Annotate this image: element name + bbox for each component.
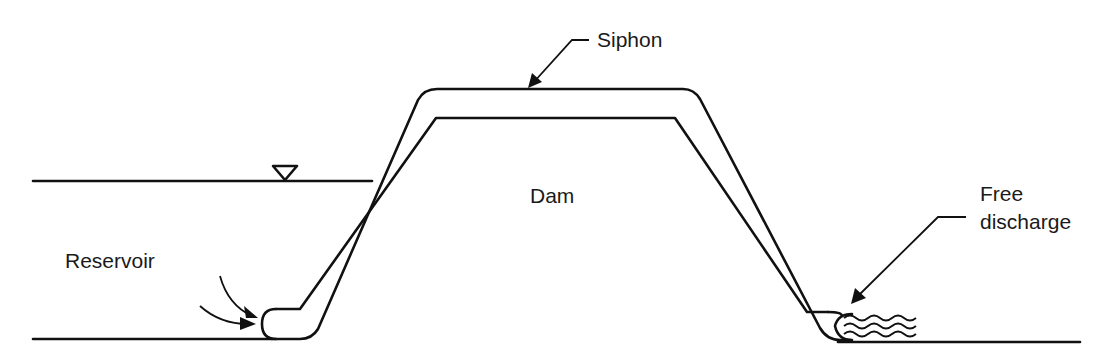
intake-mouth <box>262 309 276 339</box>
diagram-drawing <box>0 0 1112 364</box>
siphon-label: Siphon <box>597 28 662 52</box>
free-discharge-leader <box>851 217 966 304</box>
discharge-waves-icon <box>844 316 916 337</box>
free-discharge-label-line2: discharge <box>980 210 1071 234</box>
siphon-dam-diagram: Siphon Dam Reservoir Free discharge <box>0 0 1112 364</box>
reservoir-label: Reservoir <box>65 249 155 273</box>
siphon-outer-wall <box>272 89 850 340</box>
water-level-symbol-icon <box>273 166 297 180</box>
inflow-arrows <box>200 276 252 324</box>
dam-label: Dam <box>530 184 574 208</box>
siphon-inner-wall <box>276 118 828 312</box>
siphon-leader <box>528 40 589 88</box>
free-discharge-label-line1: Free <box>980 182 1023 206</box>
